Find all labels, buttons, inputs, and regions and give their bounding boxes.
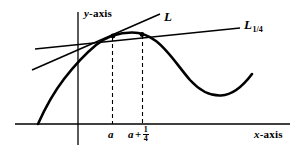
- tick-label-base: a: [128, 129, 134, 140]
- tangent-line-l: [32, 14, 160, 70]
- tick-label-a: a: [108, 129, 114, 140]
- x-axis-label: x-axis: [254, 129, 283, 140]
- function-curve: [38, 33, 252, 125]
- plus-sign: +: [135, 129, 141, 140]
- y-axis-label: y-axis: [84, 8, 112, 19]
- calculus-tangent-secant-figure: y-axis x-axis L L1/4 a a + 1 4: [0, 0, 306, 160]
- secant-line-label: L1/4: [244, 18, 262, 31]
- x-axis-label-suffix: -axis: [260, 128, 283, 140]
- fraction-denominator: 4: [143, 135, 149, 143]
- tick-label-a-plus-one-quarter: a + 1 4: [128, 126, 149, 144]
- secant-line-l-quarter: [35, 28, 240, 49]
- secant-line-label-subscript: 1/4: [252, 26, 262, 34]
- y-axis-label-suffix: -axis: [89, 7, 112, 19]
- fraction-numerator: 1: [143, 126, 149, 134]
- point-marker-at-a-plus-quarter: [140, 32, 145, 37]
- fraction-one-quarter: 1 4: [143, 126, 149, 144]
- secant-line-label-base: L: [244, 18, 252, 31]
- tangent-line-label: L: [164, 10, 172, 23]
- point-marker-at-a: [111, 34, 116, 39]
